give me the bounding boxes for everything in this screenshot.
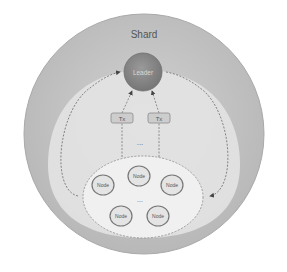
- leader-label: Leader: [133, 69, 154, 76]
- node-label: Node: [152, 213, 164, 219]
- leader-node: Leader: [124, 53, 162, 91]
- node-label: Node: [97, 182, 109, 188]
- node-label: Node: [115, 213, 127, 219]
- tx-label-left: Tx: [119, 116, 126, 122]
- tx-box-left: Tx: [111, 113, 133, 123]
- tx-box-right: Tx: [148, 113, 170, 123]
- node-4: Node: [110, 206, 132, 226]
- node-1: Node: [92, 175, 114, 195]
- tx-label-right: Tx: [156, 116, 163, 122]
- node-2: Node: [128, 166, 150, 186]
- shard-label: Shard: [131, 29, 158, 40]
- node-label: Node: [133, 173, 145, 179]
- node-ellipsis: ...: [137, 196, 143, 203]
- shard-diagram: Shard Leader Tx Tx ... Node Node Node No…: [0, 0, 287, 272]
- tx-ellipsis: ...: [137, 138, 144, 147]
- node-5: Node: [147, 206, 169, 226]
- node-3: Node: [161, 175, 183, 195]
- node-label: Node: [166, 182, 178, 188]
